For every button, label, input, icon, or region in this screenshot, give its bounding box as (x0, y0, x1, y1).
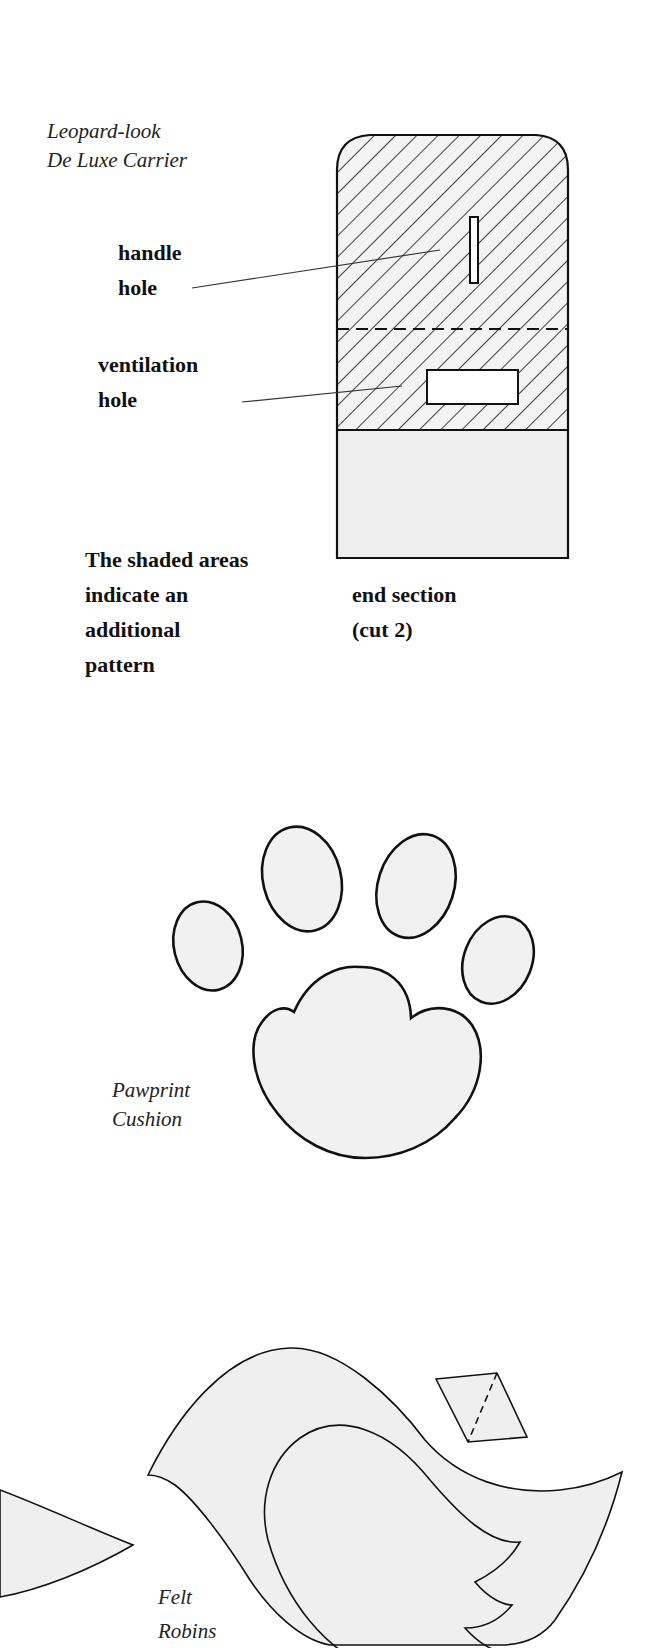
toe-pad-1 (164, 894, 252, 998)
robin-title-line2: Robins (158, 1614, 216, 1648)
handle-hole (470, 217, 478, 283)
pawprint-title-line1: Pawprint (112, 1076, 190, 1105)
carrier-end-section-diagram (337, 135, 568, 558)
robin-body (148, 1348, 622, 1645)
ventilation-hole (427, 370, 518, 404)
robin-title-line1: Felt (158, 1580, 216, 1614)
partial-robin-shape (0, 1490, 133, 1597)
pawprint-title: Pawprint Cushion (112, 1076, 190, 1134)
pawprint-title-line2: Cushion (112, 1105, 190, 1134)
robin-beak (436, 1373, 527, 1442)
robin-diagram (0, 1348, 622, 1648)
robin-title: Felt Robins (158, 1580, 216, 1648)
toe-pad-2 (251, 818, 352, 940)
pawprint-diagram (164, 818, 546, 1158)
toe-pad-4 (450, 906, 547, 1015)
carrier-lower-panel (337, 430, 568, 558)
toe-pad-3 (363, 824, 468, 948)
main-pad (254, 967, 481, 1158)
